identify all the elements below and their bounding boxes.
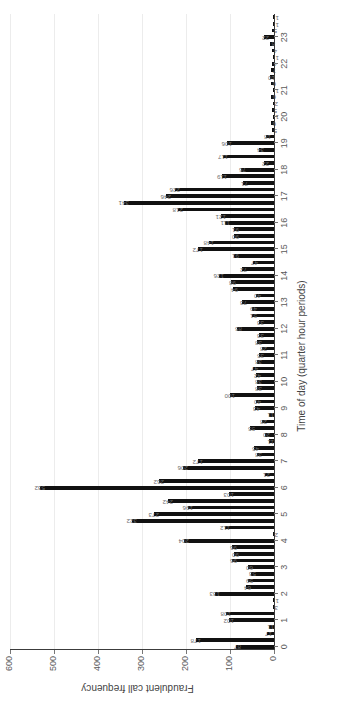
bar-value-label: 33: [258, 333, 265, 340]
x-tick-mark: [274, 593, 278, 594]
bar-value-label: 71: [241, 181, 248, 188]
bar: [233, 287, 274, 291]
x-tick-mark: [274, 89, 278, 90]
x-tick-label: 7: [279, 451, 289, 471]
bar: [184, 539, 274, 543]
bar: [175, 188, 274, 192]
bar-value-label: 178: [190, 638, 200, 645]
x-axis-title: Time of day (quarter hour periods): [296, 0, 307, 712]
bar-value-label: 111: [221, 220, 230, 227]
bar: [209, 241, 274, 245]
bar: [124, 201, 274, 205]
bar-value-label: 18: [264, 134, 271, 141]
bar: [226, 612, 274, 616]
bar-value-label: 91: [232, 227, 239, 234]
y-tick-mark: [186, 650, 187, 654]
x-tick-mark: [274, 301, 278, 302]
bar-value-label: 55: [248, 426, 255, 433]
bar: [232, 546, 274, 550]
x-tick-mark: [274, 566, 278, 567]
bar-value-label: 28: [260, 419, 267, 426]
bar-value-label: 22: [262, 35, 269, 42]
x-tick-mark: [274, 381, 278, 382]
bar-value-label: 28: [260, 346, 267, 353]
bar-value-label: 38: [255, 452, 262, 459]
bar: [227, 141, 274, 145]
x-tick-label: 10: [279, 372, 289, 392]
bar-value-label: 47: [251, 366, 258, 373]
bar: [225, 526, 274, 530]
y-tick-mark: [274, 650, 275, 654]
bar-value-label: 96: [230, 558, 237, 565]
bar: [229, 493, 274, 497]
y-tick-mark: [142, 650, 143, 654]
x-tick-label: 3: [279, 557, 289, 577]
y-tick-mark: [230, 650, 231, 654]
x-tick-mark: [274, 328, 278, 329]
bar-value-label: 103: [223, 492, 233, 499]
bar-value-label: 38: [255, 386, 262, 393]
x-tick-mark: [274, 169, 278, 170]
x-tick-label: 1: [279, 610, 289, 630]
bar: [237, 327, 274, 331]
bar: [159, 479, 274, 483]
bar-value-label: 45: [252, 446, 259, 453]
x-tick-label: 11: [279, 345, 289, 365]
x-tick-label: 18: [279, 160, 289, 180]
bar-value-label: 1: [275, 15, 278, 22]
bar-value-label: 94: [231, 287, 238, 294]
bar: [198, 459, 274, 463]
bar: [234, 552, 274, 556]
bar-value-label: 322: [127, 518, 137, 525]
bar: [219, 274, 274, 278]
bar-value-label: 532: [35, 485, 45, 492]
bar-value-label: 262: [153, 479, 163, 486]
bar-value-label: 126: [213, 273, 223, 280]
x-tick-label: 15: [279, 239, 289, 259]
y-tick-mark: [98, 650, 99, 654]
bar-value-label: 133: [210, 591, 220, 598]
bar: [188, 506, 274, 510]
bar-value-label: 90: [233, 234, 240, 241]
bar: [242, 267, 274, 271]
bar: [222, 175, 274, 179]
x-tick-label: 23: [279, 27, 289, 47]
x-tick-label: 12: [279, 319, 289, 339]
bar-value-label: 2: [275, 532, 278, 539]
bar: [168, 499, 274, 503]
x-tick-label: 9: [279, 398, 289, 418]
bar-value-label: 38: [255, 340, 262, 347]
bar-value-label: 204: [179, 538, 189, 545]
x-tick-label: 4: [279, 531, 289, 551]
bar-value-label: 206: [178, 465, 188, 472]
chart-figure: 0100200300400500600 87178171110210831133…: [0, 0, 348, 712]
bar: [221, 214, 274, 218]
bar-value-label: 20: [263, 432, 270, 439]
bar-value-label: 242: [162, 499, 172, 506]
bar-value-label: 22: [262, 161, 269, 168]
x-tick-mark: [274, 540, 278, 541]
bar-value-label: 60: [246, 565, 253, 572]
x-tick-mark: [274, 407, 278, 408]
bar-value-label: 76: [239, 167, 246, 174]
bar-value-label: 51: [250, 313, 257, 320]
x-tick-mark: [274, 63, 278, 64]
x-tick-mark: [274, 195, 278, 196]
bar-value-label: 172: [193, 247, 203, 254]
bar: [231, 281, 274, 285]
x-tick-label: 8: [279, 425, 289, 445]
bar-value-label: 218: [173, 207, 183, 214]
x-tick-label: 21: [279, 80, 289, 100]
bar-value-label: 42: [254, 373, 261, 380]
bar-value-label: 40: [255, 399, 262, 406]
bar: [223, 155, 274, 159]
bar-value-label: 43: [253, 406, 260, 413]
bar: [132, 519, 274, 523]
x-tick-label: 5: [279, 504, 289, 524]
y-tick-mark: [54, 650, 55, 654]
bar-value-label: 72: [240, 267, 247, 274]
bar-series: 8717817111021083113364595360969096204211…: [10, 14, 274, 650]
bar-value-label: 273: [149, 512, 159, 519]
bar: [229, 618, 274, 622]
bar: [225, 221, 274, 225]
